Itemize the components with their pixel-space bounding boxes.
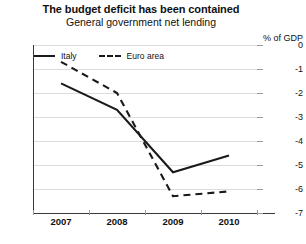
y-tick-mark [257,69,263,70]
y-tick-mark [257,141,263,142]
x-tick-mark [89,210,90,215]
y-tick-label: -4 [295,136,303,146]
y-axis-line [33,45,34,214]
series-line-italy [61,83,229,172]
y-tick-label: -3 [295,112,303,122]
y-tick-mark [257,45,263,46]
chart-subtitle: General government net lending [0,16,282,29]
x-tick-mark [201,210,202,215]
series-layer [33,45,257,213]
y-tick-label: -1 [295,64,303,74]
y-tick-text: -3 [295,112,303,122]
x-tick-label: 2008 [106,216,127,228]
series-line-euro-area [61,62,229,196]
y-tick-text: -6 [295,184,303,194]
y-tick-text: -2 [295,88,303,98]
y-tick-mark [257,189,263,190]
y-tick-text: -4 [295,136,303,146]
y-tick-text: -5 [295,160,303,170]
page-title: The budget deficit has been contained [0,3,282,16]
y-tick-label: -7 [295,208,303,218]
x-tick-mark [145,210,146,215]
x-tick-mark [33,210,34,215]
y-tick-text: -1 [295,64,303,74]
y-tick-mark [257,117,263,118]
y-axis-unit-label: % of GDP [263,33,303,43]
y-tick-mark [257,165,263,166]
chart-container: The budget deficit has been contained Ge… [0,0,306,244]
x-tick-label: 2009 [162,216,183,228]
y-tick-label: -5 [295,160,303,170]
y-tick-label: 0 [298,40,303,50]
y-tick-mark [257,93,263,94]
plot-area [33,45,257,213]
x-tick-label: 2010 [218,216,239,228]
y-tick-label: -6 [295,184,303,194]
x-tick-label: 2007 [50,216,71,228]
y-tick-label: -2 [295,88,303,98]
title-block: The budget deficit has been contained Ge… [0,3,282,29]
y-tick-text: 0 [298,40,303,50]
x-axis-line [33,213,275,214]
y-tick-text: -7 [295,208,303,218]
x-tick-mark [257,210,258,215]
